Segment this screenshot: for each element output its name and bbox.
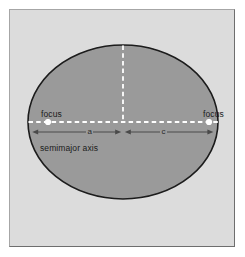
segment-a-label: a (86, 128, 93, 136)
focus-point-left (45, 119, 51, 125)
focus-label-right: focus (203, 110, 224, 119)
focus-label-left: focus (41, 110, 62, 119)
focus-point-right (206, 119, 212, 125)
segment-c-label: c (160, 128, 167, 136)
semimajor-axis-label: semimajor axis (40, 144, 98, 153)
ellipse-diagram-figure: focus focus semimajor axis a c (0, 0, 245, 257)
ellipse-diagram-canvas (0, 0, 245, 257)
